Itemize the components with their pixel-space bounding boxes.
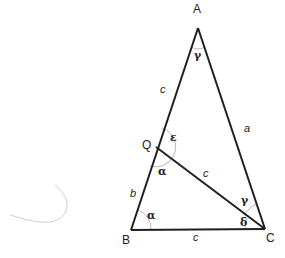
stray-curve xyxy=(10,185,67,222)
side-label-ac: a xyxy=(244,122,250,134)
side-label-bc: c xyxy=(193,231,199,243)
side-label-qb: b xyxy=(130,187,136,199)
vertex-label-a: A xyxy=(193,2,201,16)
side-label-qc: c xyxy=(203,167,209,179)
angle-label-b: α xyxy=(147,209,156,222)
side-bc xyxy=(131,229,265,230)
triangle-diagram: A B C Q c a b c c γ ε α α γ δ xyxy=(0,0,285,258)
angle-label-c-upper: γ xyxy=(241,194,249,207)
angle-label-a: γ xyxy=(194,49,202,62)
vertex-label-q: Q xyxy=(142,138,151,152)
segment-qc xyxy=(156,147,265,229)
side-ac xyxy=(198,28,265,229)
side-label-aq: c xyxy=(160,83,166,95)
vertex-label-c: C xyxy=(266,231,275,245)
side-ab xyxy=(131,28,198,230)
angle-label-q-upper: ε xyxy=(170,131,177,144)
angle-label-q-lower: α xyxy=(158,165,167,178)
angle-label-c-lower: δ xyxy=(240,216,247,229)
vertex-label-b: B xyxy=(122,233,130,247)
